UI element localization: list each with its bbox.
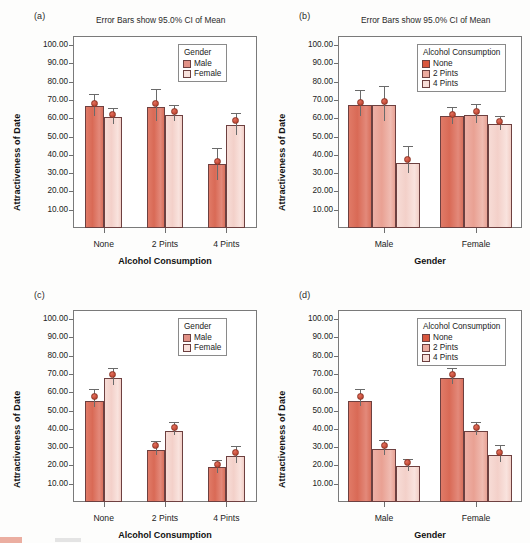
panel-a-legend-title: Gender — [184, 48, 221, 57]
y-tick-mark — [69, 319, 73, 320]
y-tick-mark — [69, 374, 73, 375]
y-tick-label: 20.00 — [24, 460, 68, 469]
error-bar-cap — [151, 89, 161, 90]
y-tick-mark — [334, 411, 338, 412]
bar-d-female-2pints — [464, 431, 488, 502]
error-bar-cap — [108, 108, 118, 109]
x-tick-label: Female — [436, 239, 516, 249]
bar-d-male-2pints — [372, 449, 396, 502]
y-tick-mark — [334, 429, 338, 430]
y-tick-label: 50.00 — [24, 406, 68, 415]
y-tick-label: 60.00 — [24, 387, 68, 396]
error-bar-cap — [231, 113, 241, 114]
x-tick-label: 4 Pints — [186, 239, 266, 249]
legend-item-none[interactable]: None — [422, 333, 500, 342]
legend-item-2pints[interactable]: 2 Pints — [422, 343, 500, 352]
panel-b-legend-title: Alcohol Consumption — [423, 48, 500, 57]
bar-c-none-female — [104, 378, 122, 502]
panel-a-x-axis-label: Alcohol Consumption — [73, 256, 257, 266]
bar-d-male-none — [348, 401, 372, 502]
y-tick-mark — [334, 447, 338, 448]
error-bar-cap — [495, 445, 505, 446]
y-tick-label: 70.00 — [24, 369, 68, 378]
y-tick-label: 10.00 — [289, 205, 333, 214]
bar-b-female-none — [440, 116, 464, 228]
legend-label-male: Male — [194, 59, 212, 68]
x-tick-label: 4 Pints — [186, 513, 266, 523]
legend-item-male[interactable]: Male — [183, 59, 221, 68]
x-tick-label: Male — [344, 239, 424, 249]
mean-marker — [109, 371, 116, 378]
x-tick-mark — [165, 502, 166, 507]
y-tick-label: 40.00 — [289, 424, 333, 433]
legend-item-female[interactable]: Female — [183, 69, 221, 78]
y-tick-label: 90.00 — [24, 58, 68, 67]
error-bar-cap — [403, 146, 413, 147]
bar-b-female-2pints — [464, 115, 488, 228]
legend-swatch-2pints-icon — [422, 70, 430, 78]
y-tick-label: 40.00 — [24, 424, 68, 433]
mean-marker — [473, 108, 480, 115]
mean-marker — [171, 424, 178, 431]
mean-marker — [357, 99, 364, 106]
bar-d-female-none — [440, 378, 464, 502]
panel-d-legend[interactable]: Alcohol Consumption None 2 Pints 4 Pints — [417, 318, 506, 366]
x-tick-mark — [104, 502, 105, 507]
legend-label-2pints: 2 Pints — [433, 69, 458, 78]
y-tick-label: 100.00 — [24, 314, 68, 323]
y-tick-mark — [69, 137, 73, 138]
x-tick-mark — [104, 228, 105, 233]
legend-swatch-male-icon — [183, 60, 191, 68]
y-tick-mark — [69, 484, 73, 485]
legend-label-2pints: 2 Pints — [433, 343, 458, 352]
bar-a-2pints-male — [147, 107, 165, 228]
panel-b: (b) Error Bars show 95.0% CI of Mean Att… — [265, 0, 530, 271]
legend-item-female[interactable]: Female — [183, 343, 221, 352]
y-tick-mark — [334, 155, 338, 156]
panel-d-y-axis-label: Attractiveness of Date — [277, 391, 287, 488]
error-bar-cap — [355, 389, 365, 390]
panel-a: (a) Error Bars show 95.0% CI of Mean Att… — [0, 0, 265, 271]
y-tick-mark — [334, 337, 338, 338]
panel-a-supertitle: Error Bars show 95.0% CI of Mean — [96, 15, 225, 25]
mean-marker — [357, 393, 364, 400]
y-tick-mark — [334, 63, 338, 64]
bar-c-2pints-male — [147, 450, 165, 502]
y-tick-label: 70.00 — [289, 95, 333, 104]
legend-swatch-female-icon — [183, 70, 191, 78]
y-tick-mark — [69, 155, 73, 156]
panel-a-legend[interactable]: Gender Male Female — [178, 44, 227, 82]
error-bar-cap — [89, 94, 99, 95]
mean-marker — [496, 118, 503, 125]
legend-label-none: None — [433, 59, 453, 68]
y-tick-label: 20.00 — [289, 460, 333, 469]
legend-item-male[interactable]: Male — [183, 333, 221, 342]
y-tick-label: 90.00 — [289, 58, 333, 67]
y-tick-mark — [69, 118, 73, 119]
y-tick-label: 20.00 — [24, 186, 68, 195]
legend-label-female: Female — [194, 343, 221, 352]
legend-swatch-4pints-icon — [422, 80, 430, 88]
legend-item-4pints[interactable]: 4 Pints — [422, 79, 500, 88]
y-tick-mark — [334, 374, 338, 375]
y-tick-mark — [69, 447, 73, 448]
y-tick-label: 40.00 — [289, 150, 333, 159]
x-tick-mark — [165, 228, 166, 233]
legend-item-none[interactable]: None — [422, 59, 500, 68]
panel-c-legend-title: Gender — [184, 322, 221, 331]
y-tick-label: 90.00 — [24, 332, 68, 341]
legend-swatch-4pints-icon — [422, 354, 430, 362]
panel-letter-c: (c) — [34, 290, 45, 300]
y-tick-label: 70.00 — [289, 369, 333, 378]
y-tick-label: 10.00 — [289, 479, 333, 488]
legend-item-4pints[interactable]: 4 Pints — [422, 353, 500, 362]
bar-c-none-male — [85, 401, 103, 502]
x-tick-label: Female — [436, 513, 516, 523]
panel-b-legend[interactable]: Alcohol Consumption None 2 Pints 4 Pints — [417, 44, 506, 92]
panel-c-legend[interactable]: Gender Male Female — [178, 318, 227, 356]
legend-swatch-male-icon — [183, 334, 191, 342]
legend-item-2pints[interactable]: 2 Pints — [422, 69, 500, 78]
error-bar-cap — [89, 389, 99, 390]
y-tick-label: 60.00 — [289, 113, 333, 122]
legend-label-male: Male — [194, 333, 212, 342]
